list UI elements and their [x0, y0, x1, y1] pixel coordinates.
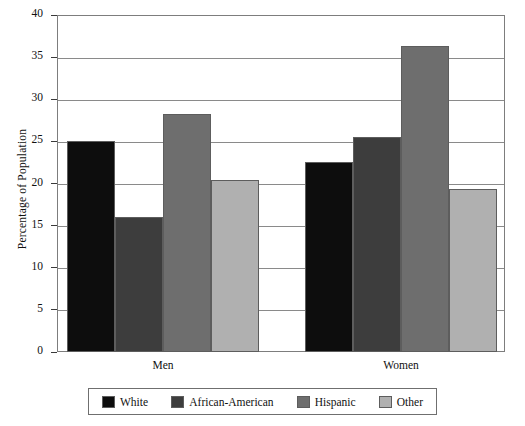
- legend-swatch-icon: [379, 396, 392, 408]
- group-label-men: Men: [103, 359, 223, 371]
- bar: [67, 141, 115, 352]
- y-tick-label: 35: [15, 49, 43, 61]
- legend-swatch-icon: [102, 396, 115, 408]
- bar-chart: Percentage of Population 051015202530354…: [0, 0, 525, 426]
- legend-label: White: [120, 396, 148, 408]
- legend-item: White: [102, 396, 148, 408]
- y-tick-label: 10: [15, 260, 43, 272]
- legend: WhiteAfrican-AmericanHispanicOther: [88, 388, 437, 415]
- bar: [211, 180, 259, 352]
- legend-label: African-American: [189, 396, 273, 408]
- group-label-women: Women: [341, 359, 461, 371]
- legend-swatch-icon: [297, 396, 310, 408]
- legend-item: Hispanic: [297, 396, 356, 408]
- bar: [305, 162, 353, 352]
- legend-label: Hispanic: [315, 396, 356, 408]
- y-tick-label: 15: [15, 218, 43, 230]
- bar: [163, 114, 211, 352]
- legend-label: Other: [397, 396, 423, 408]
- bar: [449, 189, 497, 352]
- y-tick-label: 0: [15, 344, 43, 356]
- y-tick-label: 30: [15, 91, 43, 103]
- bars-layer: [57, 15, 505, 352]
- y-axis-title: Percentage of Population: [16, 94, 28, 284]
- legend-item: African-American: [171, 396, 273, 408]
- y-tick-label: 5: [15, 302, 43, 314]
- y-tick-label: 40: [15, 7, 43, 19]
- bar: [353, 137, 401, 352]
- y-tick-label: 20: [15, 176, 43, 188]
- bar: [401, 46, 449, 352]
- y-tick-label: 25: [15, 133, 43, 145]
- bar: [115, 217, 163, 352]
- legend-item: Other: [379, 396, 423, 408]
- legend-swatch-icon: [171, 396, 184, 408]
